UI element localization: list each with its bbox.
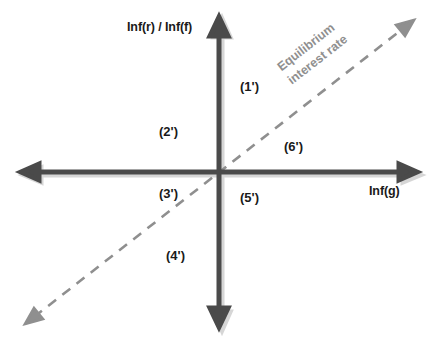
y-axis-label: Inf(r) / Inf(f) <box>127 20 192 34</box>
arrow-up-head <box>210 17 228 36</box>
quadrant-label-2: (2') <box>159 124 178 139</box>
quadrant-label-3: (3') <box>159 186 178 201</box>
quadrant-diagram: Inf(r) / Inf(f) Inf(g) Equilibrium inter… <box>0 0 438 344</box>
arrow-right-head <box>399 164 417 180</box>
quadrant-label-5: (5') <box>240 190 259 205</box>
quadrant-label-1: (1') <box>240 79 259 94</box>
axes-layer <box>0 0 438 344</box>
x-axis-label: Inf(g) <box>369 184 400 198</box>
arrow-down-head <box>210 308 228 327</box>
arrow-left-head <box>21 164 39 180</box>
quadrant-label-6: (6') <box>284 139 303 154</box>
quadrant-label-4: (4') <box>166 248 185 263</box>
